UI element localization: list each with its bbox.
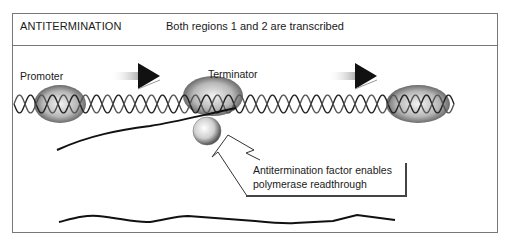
promoter-label: Promoter bbox=[20, 70, 63, 82]
callout-line-1: Antitermination factor enables bbox=[253, 163, 392, 177]
terminator-label: Terminator bbox=[208, 68, 258, 80]
diagram-canvas bbox=[0, 0, 509, 249]
callout-line-2: polymerase readthrough bbox=[253, 177, 392, 191]
callout-text: Antitermination factor enables polymeras… bbox=[253, 163, 392, 191]
sphere-icon bbox=[193, 117, 221, 145]
readthrough-transcript bbox=[59, 215, 395, 223]
arrow-right-icon bbox=[110, 63, 160, 89]
rna-polymerase-icon bbox=[34, 85, 86, 123]
rna-polymerase-icon bbox=[386, 85, 450, 123]
arrow-right-icon bbox=[327, 63, 377, 89]
